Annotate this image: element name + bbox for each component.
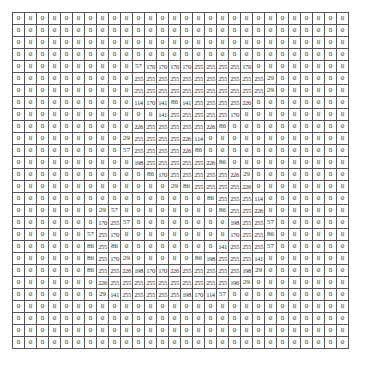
grid-cell: 0 bbox=[325, 133, 337, 145]
grid-row: 0000000000000000000000000000 bbox=[13, 301, 349, 313]
grid-cell: 0 bbox=[13, 157, 25, 169]
grid-cell: 0 bbox=[301, 73, 313, 85]
grid-cell: 0 bbox=[313, 121, 325, 133]
grid-cell: 0 bbox=[109, 121, 121, 133]
grid-cell: 0 bbox=[73, 325, 85, 337]
grid-cell: 0 bbox=[289, 121, 301, 133]
grid-cell: 0 bbox=[85, 181, 97, 193]
grid-cell: 0 bbox=[313, 61, 325, 73]
grid-cell: 255 bbox=[217, 61, 229, 73]
grid-cell: 0 bbox=[109, 145, 121, 157]
grid-cell: 255 bbox=[97, 229, 109, 241]
grid-cell: 0 bbox=[13, 61, 25, 73]
grid-cell: 0 bbox=[133, 205, 145, 217]
grid-cell: 0 bbox=[289, 325, 301, 337]
grid-cell: 0 bbox=[337, 217, 349, 229]
grid-cell: 0 bbox=[145, 325, 157, 337]
grid-cell: 255 bbox=[121, 289, 133, 301]
grid-cell: 0 bbox=[73, 301, 85, 313]
grid-cell: 0 bbox=[301, 25, 313, 37]
grid-cell: 0 bbox=[325, 25, 337, 37]
grid-cell: 0 bbox=[253, 145, 265, 157]
grid-cell: 0 bbox=[181, 205, 193, 217]
grid-cell: 0 bbox=[13, 265, 25, 277]
grid-cell: 0 bbox=[97, 133, 109, 145]
grid-cell: 0 bbox=[193, 325, 205, 337]
grid-cell: 0 bbox=[49, 205, 61, 217]
grid-cell: 0 bbox=[49, 265, 61, 277]
grid-cell: 0 bbox=[13, 133, 25, 145]
grid-cell: 0 bbox=[109, 181, 121, 193]
grid-cell: 0 bbox=[277, 217, 289, 229]
grid-cell: 0 bbox=[37, 157, 49, 169]
grid-cell: 0 bbox=[181, 313, 193, 325]
grid-cell: 0 bbox=[157, 49, 169, 61]
grid-cell: 255 bbox=[157, 85, 169, 97]
grid-cell: 86 bbox=[217, 205, 229, 217]
grid-cell: 0 bbox=[85, 73, 97, 85]
grid-cell: 0 bbox=[25, 205, 37, 217]
grid-cell: 0 bbox=[313, 337, 325, 349]
grid-cell: 0 bbox=[277, 121, 289, 133]
grid-cell: 0 bbox=[265, 337, 277, 349]
grid-cell: 0 bbox=[109, 97, 121, 109]
grid-cell: 0 bbox=[49, 109, 61, 121]
grid-cell: 0 bbox=[229, 49, 241, 61]
grid-cell: 255 bbox=[217, 85, 229, 97]
grid-cell: 0 bbox=[289, 337, 301, 349]
grid-cell: 0 bbox=[121, 121, 133, 133]
grid-cell: 0 bbox=[301, 37, 313, 49]
grid-cell: 0 bbox=[301, 85, 313, 97]
grid-cell: 0 bbox=[325, 253, 337, 265]
grid-body: 0000000000000000000000000000000000000000… bbox=[13, 13, 349, 349]
grid-cell: 226 bbox=[205, 121, 217, 133]
grid-cell: 198 bbox=[205, 253, 217, 265]
grid-cell: 255 bbox=[241, 241, 253, 253]
grid-cell: 0 bbox=[217, 145, 229, 157]
grid-cell: 0 bbox=[325, 181, 337, 193]
grid-cell: 0 bbox=[301, 277, 313, 289]
grid-cell: 255 bbox=[229, 181, 241, 193]
grid-cell: 0 bbox=[217, 37, 229, 49]
grid-cell: 255 bbox=[193, 181, 205, 193]
grid-cell: 0 bbox=[157, 205, 169, 217]
grid-cell: 0 bbox=[49, 37, 61, 49]
grid-row: 0000000000226255255255255255226860000000… bbox=[13, 121, 349, 133]
grid-cell: 0 bbox=[109, 193, 121, 205]
grid-cell: 29 bbox=[121, 133, 133, 145]
grid-cell: 0 bbox=[217, 229, 229, 241]
grid-cell: 170 bbox=[157, 265, 169, 277]
grid-cell: 0 bbox=[49, 301, 61, 313]
grid-cell: 0 bbox=[241, 37, 253, 49]
grid-cell: 170 bbox=[97, 217, 109, 229]
grid-cell: 0 bbox=[61, 49, 73, 61]
grid-cell: 255 bbox=[145, 85, 157, 97]
grid-cell: 170 bbox=[145, 97, 157, 109]
grid-cell: 0 bbox=[181, 325, 193, 337]
grid-cell: 86 bbox=[85, 253, 97, 265]
grid-cell: 0 bbox=[85, 13, 97, 25]
grid-cell: 0 bbox=[325, 109, 337, 121]
grid-cell: 0 bbox=[85, 289, 97, 301]
grid-cell: 0 bbox=[73, 265, 85, 277]
grid-cell: 255 bbox=[229, 61, 241, 73]
grid-cell: 255 bbox=[145, 145, 157, 157]
grid-cell: 198 bbox=[133, 265, 145, 277]
grid-cell: 0 bbox=[313, 109, 325, 121]
grid-cell: 0 bbox=[277, 49, 289, 61]
grid-cell: 0 bbox=[289, 217, 301, 229]
grid-cell: 0 bbox=[337, 97, 349, 109]
grid-cell: 0 bbox=[313, 217, 325, 229]
grid-cell: 0 bbox=[145, 49, 157, 61]
grid-cell: 0 bbox=[25, 181, 37, 193]
grid-cell: 0 bbox=[61, 169, 73, 181]
grid-cell: 0 bbox=[277, 157, 289, 169]
grid-cell: 0 bbox=[85, 25, 97, 37]
grid-row: 0000000000000298625525525525522600000000 bbox=[13, 181, 349, 193]
grid-cell: 0 bbox=[85, 337, 97, 349]
grid-cell: 0 bbox=[13, 37, 25, 49]
grid-cell: 0 bbox=[13, 229, 25, 241]
grid-cell: 0 bbox=[193, 25, 205, 37]
grid-cell: 0 bbox=[133, 325, 145, 337]
grid-cell: 255 bbox=[145, 157, 157, 169]
